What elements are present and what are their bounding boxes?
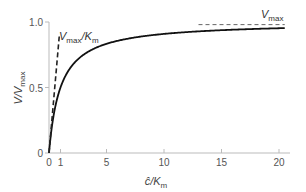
slope-annotation-k: /K	[80, 30, 92, 42]
y-ticks: 00.51.0	[29, 17, 49, 159]
y-tick-label: 0.5	[29, 83, 43, 94]
x-tick-label: 10	[158, 157, 170, 168]
saturation-curve	[49, 28, 285, 153]
y-tick-label: 0	[37, 148, 43, 159]
x-tick-label: 1	[58, 157, 64, 168]
slope-annotation-max: max	[66, 36, 81, 45]
vmax-annotation: Vmax	[261, 8, 283, 23]
series-group	[49, 25, 285, 153]
x-tick-label: 20	[273, 157, 285, 168]
slope-annotation: Vmax/Km	[59, 30, 99, 45]
y-axis-label-main: V/V	[12, 85, 24, 104]
y-axis-label: V/Vmax	[12, 72, 27, 105]
x-axis-label-main: ĉ/K	[145, 175, 162, 187]
x-ticks: 015101520	[46, 149, 285, 168]
x-tick-label: 5	[104, 157, 110, 168]
y-tick-label: 1.0	[29, 17, 43, 28]
y-axis-label-sub: max	[18, 72, 27, 87]
x-tick-label: 0	[46, 157, 52, 168]
x-axis-label-sub: m	[161, 181, 168, 190]
x-axis-label: ĉ/Km	[145, 175, 168, 190]
michaelis-menten-chart: 00.51.0 015101520 V/Vmax ĉ/Km Vmax/Km Vm…	[0, 0, 306, 192]
x-tick-label: 15	[216, 157, 228, 168]
vmax-annotation-max: max	[268, 14, 283, 23]
slope-annotation-m: m	[92, 36, 99, 45]
